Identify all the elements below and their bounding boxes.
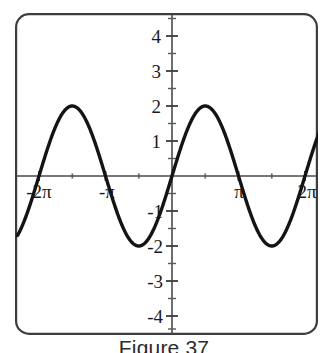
x-tick-label-neg2pi: -2π xyxy=(26,181,52,202)
y-tick-label-4: 4 xyxy=(152,26,162,47)
y-tick-label-neg3: -3 xyxy=(147,271,163,292)
y-tick-label-2: 2 xyxy=(152,96,162,117)
y-tick-label-3: 3 xyxy=(152,61,162,82)
y-tick-label-1: 1 xyxy=(152,131,162,152)
plot-frame: 4 3 2 1 -1 -2 -3 -4 -2π -π π 2π xyxy=(15,13,318,335)
figure-container: 4 3 2 1 -1 -2 -3 -4 -2π -π π 2π Figure 3… xyxy=(0,0,328,353)
figure-caption: Figure 37 xyxy=(0,336,328,353)
y-tick-label-neg4: -4 xyxy=(147,306,163,327)
sine-graph: 4 3 2 1 -1 -2 -3 -4 -2π -π π 2π xyxy=(15,13,318,335)
